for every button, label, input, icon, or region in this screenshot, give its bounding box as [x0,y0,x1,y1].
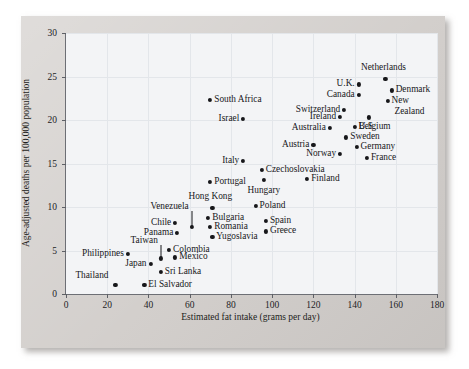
data-point-label: Philippines [82,249,124,258]
data-point-label: Australia [292,123,326,132]
x-axis-tick-label: 140 [347,300,361,310]
data-point-label: Thailand [75,272,108,281]
data-point[interactable] [390,88,394,92]
x-axis-tick [355,294,356,298]
y-axis-tick [62,77,66,78]
data-point[interactable] [260,167,264,171]
data-point[interactable] [210,206,214,210]
data-point[interactable] [383,77,387,81]
x-axis-tick [190,294,191,298]
data-point-label: Venezuela [151,202,189,211]
y-axis-tick-label: 30 [48,28,58,38]
y-axis-tick [62,251,66,252]
x-axis-tick [396,294,397,298]
data-point[interactable] [173,221,177,225]
data-point-label: El Salvador [148,281,192,290]
x-axis-tick [272,294,273,298]
data-point-label: Spain [270,216,291,225]
x-axis-tick-label: 0 [64,300,69,310]
data-point-label: Italy [222,156,239,165]
data-point[interactable] [367,115,371,119]
x-axis-tick [107,294,108,298]
data-point[interactable] [208,225,212,229]
data-point-label: Chile [151,218,171,227]
x-axis-tick [66,294,67,298]
y-axis-tick [62,120,66,121]
data-point-label: Hungary [248,186,281,195]
data-point[interactable] [305,177,309,181]
y-axis-tick [62,207,66,208]
data-point-label: New [392,96,410,105]
data-point-label: Norway [306,149,336,158]
data-point[interactable] [352,125,356,129]
x-axis-tick [148,294,149,298]
y-axis-tick-label: 10 [48,202,58,212]
data-point[interactable] [126,252,130,256]
y-axis-tick [62,294,66,295]
gridline-horizontal [66,77,437,78]
data-point[interactable] [355,145,359,149]
data-point[interactable] [206,216,210,220]
data-point[interactable] [311,143,315,147]
data-point-label: U.S. [359,123,376,132]
data-point-label: Sweden [350,133,379,142]
data-point[interactable] [262,178,266,182]
data-point[interactable] [264,219,268,223]
data-point-label: Japan [125,259,146,268]
data-point-label: Poland [260,201,286,210]
data-point-label: Romania [214,222,248,231]
data-point[interactable] [264,229,268,233]
data-point[interactable] [241,159,245,163]
data-point-label: U.K. [337,80,355,89]
data-point[interactable] [365,156,369,160]
data-point-label: Netherlands [361,63,406,72]
data-point[interactable] [208,180,212,184]
x-axis-tick-label: 180 [430,300,444,310]
data-point-label: Greece [270,227,296,236]
x-axis-tick [313,294,314,298]
data-point[interactable] [328,126,332,130]
data-point-label: Switzerland [296,105,340,114]
y-axis-tick-label: 25 [48,72,58,82]
data-point-label: Israel [219,114,240,123]
data-point-label: Austria [282,141,309,150]
data-point[interactable] [148,261,152,265]
data-point[interactable] [208,98,212,102]
data-point-label: South Africa [214,95,261,104]
y-axis-tick-label: 5 [52,246,57,256]
data-point-label: Canada [327,90,355,99]
y-axis-tick [62,164,66,165]
y-axis-tick [62,33,66,34]
data-point-label: Finland [311,175,339,184]
data-point[interactable] [342,107,346,111]
data-point[interactable] [113,283,117,287]
x-axis-tick-label: 60 [185,300,195,310]
data-point[interactable] [357,82,361,86]
gridline-horizontal [66,164,437,165]
y-axis-tick-label: 20 [48,115,58,125]
data-point-label: Yugoslavia [216,232,257,241]
data-point[interactable] [338,114,342,118]
data-point-label: Denmark [396,86,431,95]
scatter-plot-figure: 020406080100120140160180051015202530Thai… [0,0,469,369]
data-point[interactable] [142,283,146,287]
data-point[interactable] [173,255,177,259]
data-point[interactable] [357,93,361,97]
data-point-label: Zealand [395,107,425,116]
data-point[interactable] [159,270,163,274]
x-axis-title: Estimated fat intake (grams per day) [65,312,436,322]
data-point[interactable] [385,99,389,103]
data-point[interactable] [344,135,348,139]
x-axis-tick-label: 80 [226,300,236,310]
data-point[interactable] [338,152,342,156]
data-point[interactable] [175,231,179,235]
x-axis-tick [437,294,438,298]
x-axis-tick-label: 40 [144,300,154,310]
data-point-label: Czechoslovakia [266,165,325,174]
plot-panel: 020406080100120140160180051015202530Thai… [65,33,437,295]
gridline-vertical [437,33,438,294]
label-leader-line [160,245,161,257]
data-point[interactable] [210,234,214,238]
data-point-label: Colombia [173,245,210,254]
y-axis-title: Age-adjusted deaths per 100,000 populati… [21,79,31,247]
